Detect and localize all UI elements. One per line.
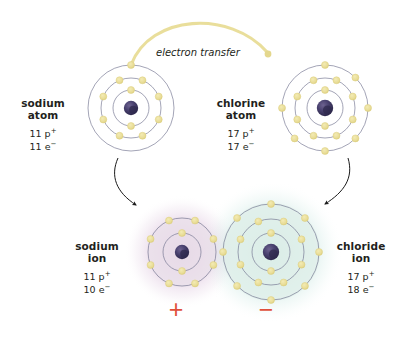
chloride-ion-nucleus-detail [269,250,278,259]
chloride-ion-electron [301,282,308,289]
chloride-ion-electron [220,249,227,256]
chlorine-atom-electron [349,116,356,123]
chloride-ion-name-line2: ion [328,252,394,264]
chlorine-atom-electron [294,116,301,123]
label-sodium-ion: sodium ion 11 p+ 10 e− [62,240,132,295]
arrow-sodium-to-ion [115,158,136,205]
sodium-ion-electron [165,280,172,287]
chloride-ion-electron [237,261,244,268]
label-sodium-atom: sodium atom 11 p+ 11 e− [8,97,78,152]
chlorine-atom-protons: 17 p+ [204,127,278,139]
chlorine-atom-electron [322,148,329,155]
chloride-ion-protons: 17 p+ [328,270,394,282]
sodium-atom-nucleus-detail [129,106,137,114]
chloride-ion-electron [268,201,275,208]
chlorine-atom-electron [322,62,329,69]
chloride-ion-electron [234,282,241,289]
chloride-ion-electron [255,279,262,286]
chloride-ion-electron [280,279,287,286]
sodium-ion-electron [192,217,199,224]
chlorine-atom-electron [365,105,372,112]
chloride-ion-name-line1: chloride [328,240,394,252]
sodium-atom-name-line2: atom [8,109,78,121]
chlorine-atom-electron [310,77,317,84]
label-chloride-ion: chloride ion 17 p+ 18 e− [328,240,394,295]
chloride-ion-electron [268,230,275,237]
chlorine-atom-electron [322,123,329,130]
chlorine-atom-name-line2: atom [204,109,278,121]
sodium-atom-electron [139,77,146,84]
chloride-ion-electron [301,215,308,222]
chloride-ion-electron [255,218,262,225]
ion-glow-layer [124,181,343,323]
chlorine-atom-electron [310,132,317,139]
sodium-ion-electron [192,280,199,287]
sodium-atom-electrons: 11 e− [8,140,78,152]
sodium-atom-electron [155,116,162,123]
sodium-ion-electron [147,262,154,269]
sodium-atom [88,62,174,152]
chlorine-atom-electron [352,74,359,81]
chlorine-atom-electron [322,87,329,94]
sodium-atom-electron [116,77,123,84]
chlorine-atom-nucleus-detail [323,106,332,115]
chlorine-atom-electron [294,93,301,100]
electron-transfer-label: electron transfer [156,47,240,58]
chloride-ion-electron [280,218,287,225]
sodium-ion-electrons: 10 e− [62,283,132,295]
chlorine-atom-electron [349,93,356,100]
label-chlorine-atom: chlorine atom 17 p+ 17 e− [204,97,278,152]
chloride-ion-electron [234,215,241,222]
sodium-ion-nucleus-detail [180,250,188,258]
sodium-ion-electron [179,230,186,237]
sodium-ion-name-line2: ion [62,252,132,264]
sodium-atom-protons: 11 p+ [8,127,78,139]
chlorine-atom-name-line1: chlorine [204,97,278,109]
chloride-ion-electron [316,249,323,256]
chlorine-atom-electrons: 17 e− [204,140,278,152]
sodium-ion-protons: 11 p+ [62,270,132,282]
chlorine-atom-electron [352,135,359,142]
electron-transfer-arc [131,23,271,65]
chlorine-atom-electron [279,105,286,112]
chloride-ion-electron [298,236,305,243]
chloride-ion-electrons: 18 e− [328,283,394,295]
chloride-ion-electron [237,236,244,243]
sodium-atom-electron [155,93,162,100]
sodium-atom-electron [100,116,107,123]
sodium-atom-electron [128,87,135,94]
chloride-ion-electron [298,261,305,268]
ionic-bond-diagram: sodium atom 11 p+ 11 e− chlorine atom 17… [0,0,398,344]
sodium-atom-electron [128,62,135,69]
sodium-atom-electron [116,132,123,139]
chloride-ion-electron [268,268,275,275]
chlorine-atom-electron [333,132,340,139]
positive-charge-sign: + [168,297,184,322]
sodium-ion-electron [165,217,172,224]
sodium-ion-electron [147,235,154,242]
arrow-chlorine-to-ion [325,158,350,204]
sodium-atom-name-line1: sodium [8,97,78,109]
sodium-ion-name-line1: sodium [62,240,132,252]
chlorine-atom-electron [291,135,298,142]
negative-charge-sign: − [258,297,274,322]
chlorine-atom-electron [333,77,340,84]
chlorine-atom [279,62,372,155]
sodium-ion-electron [210,235,217,242]
sodium-atom-electron [139,132,146,139]
sodium-atom-electron [100,93,107,100]
sodium-ion-electron [179,268,186,275]
sodium-atom-electron [128,123,135,130]
sodium-ion-electron [210,262,217,269]
